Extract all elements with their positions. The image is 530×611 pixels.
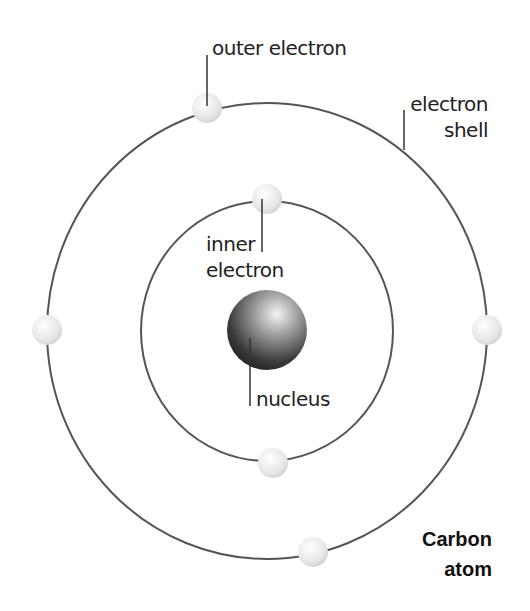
inner-electron-top (252, 184, 282, 214)
diagram-title-line2: atom (400, 556, 492, 582)
nucleus-label: nucleus (256, 387, 330, 411)
outer-electron-left (32, 315, 62, 345)
electron-shell-label-line1: electron (408, 92, 488, 116)
electron-shell-label-line2: shell (408, 118, 488, 142)
outer-electron-right (472, 315, 502, 345)
diagram-title-line1: Carbon (400, 526, 492, 552)
inner-electron-label-line2: electron (206, 258, 284, 282)
outer-electron-label: outer electron (212, 36, 346, 60)
inner-electron-bottom (258, 448, 288, 478)
inner-electron-label-line1: inner (206, 232, 255, 256)
nucleus (227, 290, 307, 370)
outer-electron-bottom (298, 537, 328, 567)
